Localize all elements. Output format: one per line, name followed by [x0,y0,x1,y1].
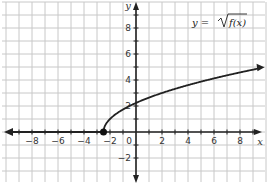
x-tick-label: 0 [126,136,132,146]
curve-arrow-icon [257,64,265,71]
y-arrow-icon [133,2,139,10]
x-tick-label: −4 [77,136,91,146]
chart: −8−6−4−202468−22468xyy = f(x) [0,0,267,185]
y-tick-label: 8 [125,23,131,33]
chart-title-radicand: f(x) [228,17,246,28]
chart-title-lhs: y = [191,17,209,28]
grid [2,2,266,182]
x-tick-label: 6 [211,136,217,146]
x-arrow-icon [254,129,262,135]
y-arrow-down-icon [133,175,139,183]
y-tick-label: 4 [125,75,131,85]
x-tick-label: −8 [25,136,39,146]
x-tick-label: 4 [185,136,191,146]
y-tick-label: −2 [118,153,131,163]
x-tick-label: −6 [51,136,65,146]
x-tick-label: 2 [159,136,165,146]
x-axis-label: x [257,136,263,147]
y-axis-label: y [124,0,131,11]
x-tick-label: 8 [237,136,243,146]
closed-dot [100,129,107,136]
ray-arrow-icon [4,128,13,136]
y-tick-label: 6 [125,49,131,59]
x-tick-label: −2 [103,136,116,146]
